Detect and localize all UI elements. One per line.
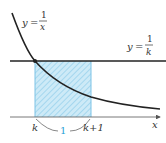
svg-text:k: k: [146, 47, 151, 57]
svg-text:=: =: [135, 41, 143, 52]
width-label: 1: [60, 125, 66, 136]
svg-text:1: 1: [41, 10, 47, 20]
svg-text:=: =: [30, 17, 38, 28]
intersection-point: [33, 59, 37, 63]
line-label: y = 1 k: [126, 34, 153, 57]
tick-label-k: k: [32, 122, 38, 133]
svg-text:y: y: [126, 41, 133, 52]
tick-label-k-plus-1: k+1: [83, 122, 104, 133]
svg-text:1: 1: [147, 34, 153, 44]
svg-text:y: y: [21, 17, 28, 28]
diagram-canvas: y = 1 x y = 1 k k 1 k+1 x: [0, 0, 166, 143]
svg-text:x: x: [40, 22, 45, 32]
x-axis-label: x: [152, 119, 158, 130]
curve-label: y = 1 x: [21, 10, 47, 32]
